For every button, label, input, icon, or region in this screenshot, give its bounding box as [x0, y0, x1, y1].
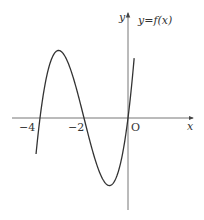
origin-label: O [131, 122, 140, 133]
curve-label: y=f(x) [138, 15, 172, 26]
x-tick-label-neg4: −4 [19, 122, 35, 133]
function-graph-figure: y y=f(x) x O −4 −2 [0, 0, 204, 220]
plot-area [0, 0, 204, 220]
y-axis-label: y [119, 12, 125, 23]
x-axis-label: x [187, 121, 193, 132]
x-tick-label-neg2: −2 [68, 122, 84, 133]
